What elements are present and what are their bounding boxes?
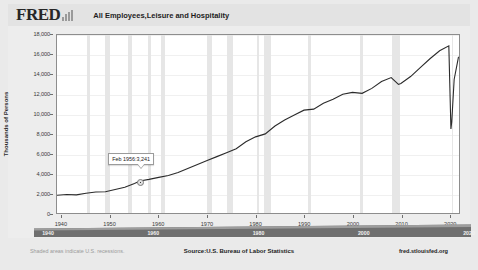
y-tick [50,154,53,155]
slider-tick-label: 2000 [358,230,370,236]
plot-area[interactable]: Feb 1956:3,241 [56,34,460,214]
y-tick-label: 12,000 [33,91,50,97]
chart-container: 02,0004,0006,0008,00010,00012,00014,0001… [8,26,470,238]
x-tick [402,215,403,218]
y-tick-label: 14,000 [33,71,50,77]
y-tick-label: 18,000 [33,31,50,37]
timeline-slider[interactable]: 19401960198020002020 [34,223,471,239]
data-line [57,35,459,213]
y-tick-label: 8,000 [37,131,51,137]
series-line [57,46,459,195]
recession-note: Shaded areas indicate U.S. recessions. [30,248,124,254]
y-tick-label: 6,000 [37,151,51,157]
slider-tick-label: 1940 [42,230,54,236]
x-tick [110,215,111,218]
x-tick [158,215,159,218]
y-tick-label: 16,000 [33,51,50,57]
attribution-link[interactable]: fred.stlouisfed.org [399,248,448,254]
bar-chart-icon [62,10,73,21]
x-tick [61,215,62,218]
y-tick-label: 2,000 [37,191,51,197]
slider-tick-label: 1980 [253,230,265,236]
y-tick [50,94,53,95]
x-tick [256,215,257,218]
source-label: Source:U.S. Bureau of Labor Statistics [184,248,294,254]
slider-tick-label: 2020 [463,230,475,236]
y-axis-title: Thousands of Persons [3,92,9,157]
x-tick [207,215,208,218]
y-tick-label: 4,000 [37,171,51,177]
y-tick [50,34,53,35]
y-tick-label: 10,000 [33,111,50,117]
y-tick [50,54,53,55]
y-tick [50,114,53,115]
fred-logo[interactable]: FRED [16,5,60,25]
y-tick [50,134,53,135]
data-point-marker[interactable] [137,179,144,186]
fred-chart-page: FRED All Employees,Leisure and Hospitali… [0,0,478,270]
y-tick [50,214,53,215]
y-axis: 02,0004,0006,0008,00010,00012,00014,0001… [8,26,54,222]
x-tick [304,215,305,218]
chart-footer: Shaded areas indicate U.S. recessions. S… [0,248,478,262]
x-tick [450,215,451,218]
y-tick [50,194,53,195]
y-tick [50,174,53,175]
chart-header: FRED All Employees,Leisure and Hospitali… [8,4,470,26]
page-title: All Employees,Leisure and Hospitality [93,11,229,20]
slider-tick-label: 1960 [147,230,159,236]
y-tick [50,74,53,75]
data-point-tooltip: Feb 1956:3,241 [108,153,154,165]
x-tick [353,215,354,218]
